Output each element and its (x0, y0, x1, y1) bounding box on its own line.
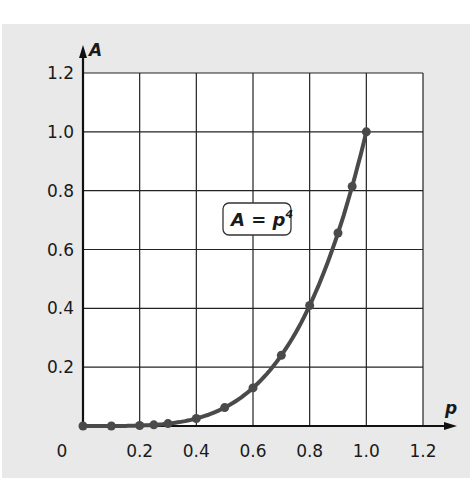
data-point (164, 419, 173, 428)
data-point (305, 301, 314, 310)
y-tick-label: 0.4 (47, 298, 74, 318)
y-axis-arrow-icon (79, 45, 87, 58)
svg-text:A = p4: A = p4 (229, 208, 293, 230)
data-point (249, 383, 258, 392)
x-tick-label: 0 (57, 441, 68, 461)
x-tick-label: 0.6 (239, 441, 266, 461)
y-axis-label: A (87, 40, 102, 60)
x-axis-arrow-icon (444, 422, 457, 430)
data-point (362, 127, 371, 136)
y-tick-label: 0.2 (47, 357, 74, 377)
x-tick-label: 0.2 (126, 441, 153, 461)
x-tick-label: 1.2 (409, 441, 436, 461)
data-point (220, 403, 229, 412)
equation-label: A = p4 (223, 203, 293, 235)
data-point (334, 228, 343, 237)
y-tick-label: 0.8 (47, 181, 74, 201)
data-point (135, 421, 144, 430)
data-point (348, 182, 357, 191)
data-point (149, 420, 158, 429)
grid (83, 73, 423, 426)
chart-plot: 00.20.40.60.81.01.20.20.40.60.81.01.2 A … (0, 0, 475, 499)
data-point (192, 414, 201, 423)
data-point (107, 421, 116, 430)
data-point (277, 351, 286, 360)
y-tick-label: 1.2 (47, 63, 74, 83)
x-tick-label: 0.8 (296, 441, 323, 461)
data-point (79, 422, 88, 431)
y-tick-label: 1.0 (47, 122, 74, 142)
y-tick-label: 0.6 (47, 240, 74, 260)
x-axis-label: p (444, 398, 457, 418)
x-tick-label: 0.4 (183, 441, 210, 461)
x-tick-label: 1.0 (353, 441, 380, 461)
